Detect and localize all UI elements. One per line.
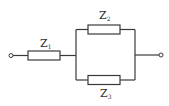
z1-resistor	[28, 51, 60, 60]
z1-label: Z1	[40, 37, 51, 50]
circuit-diagram: Z1 Z2 Z3	[0, 0, 169, 106]
right-terminal-icon	[159, 53, 163, 57]
z2-resistor	[88, 25, 120, 34]
left-terminal-icon	[9, 54, 13, 58]
z3-resistor	[88, 76, 120, 85]
z2-label: Z2	[99, 9, 111, 22]
z3-label: Z3	[100, 87, 112, 100]
